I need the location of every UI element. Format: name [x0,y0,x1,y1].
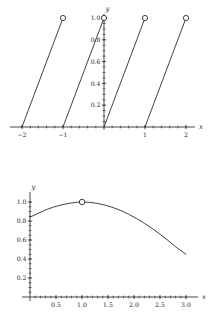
tick-label-group: 0.51.01.52.02.53.00.20.40.60.81.0 [17,198,191,308]
y-tick-label: 0.4 [17,255,27,262]
y-axis-label: y [31,183,36,191]
open-circle-marker [79,199,84,204]
y-axis-label: y [105,5,110,13]
major-tick-group [28,202,186,299]
x-tick-label: 2.0 [129,301,139,308]
x-tick-label: 0.5 [51,301,61,308]
open-circle-marker [60,15,65,20]
axis-group [10,14,195,130]
sawtooth-chart: −2−1120.20.40.60.81.0 x y [0,0,215,160]
x-tick-label: −1 [58,131,67,138]
open-circle-markers [79,199,84,204]
x-tick-label: 1.0 [77,301,87,308]
open-circle-markers [60,15,188,20]
sawtooth-segment [63,18,104,127]
open-circle-marker [183,15,188,20]
y-tick-label: 0.4 [91,80,101,87]
y-tick-label: 1.0 [17,198,27,205]
peak-curve-chart: 0.51.01.52.02.53.00.20.40.60.81.0 x y [0,160,215,319]
open-circle-marker [101,15,106,20]
y-tick-label: 0.6 [91,58,101,65]
minor-tick-group [29,202,186,298]
peak-curve [30,202,186,254]
x-tick-label: 1.5 [103,301,113,308]
x-axis-label: x [202,293,206,301]
sawtooth-segment [145,18,186,127]
y-tick-label: 0.6 [17,236,27,243]
sawtooth-segment [104,18,145,127]
sawtooth-segment [22,18,63,127]
peak-curve-path [30,202,186,254]
peak-curve-chart-panel: 0.51.01.52.02.53.00.20.40.60.81.0 x y [0,160,215,319]
x-tick-label: 2.5 [155,301,165,308]
axis-group [22,192,198,301]
open-circle-marker [142,15,147,20]
tick-label-group: −2−1120.20.40.60.81.0 [17,14,188,138]
y-tick-label: 0.8 [17,217,27,224]
y-tick-label: 0.2 [17,274,27,281]
x-tick-label: 2 [184,131,188,138]
x-tick-label: 3.0 [181,301,191,308]
y-tick-label: 0.2 [91,101,101,108]
x-tick-label: 1 [143,131,147,138]
x-axis-label: x [199,123,203,131]
x-tick-label: −2 [17,131,26,138]
y-tick-label: 1.0 [91,14,101,21]
sawtooth-chart-panel: −2−1120.20.40.60.81.0 x y [0,0,215,160]
